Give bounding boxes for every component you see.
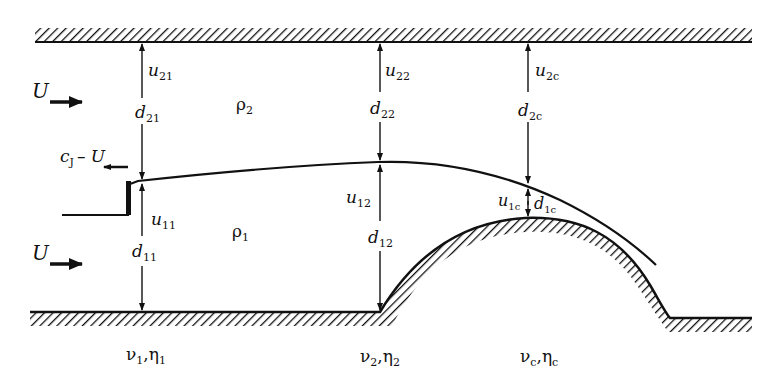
- upper-density-label: ρ2: [236, 94, 253, 117]
- two-layer-flow-diagram: U U cJ– U ρ2 ρ1 u21 d21 u11 d11 ν1,η1 u2…: [0, 0, 779, 391]
- d21-label: d21: [135, 102, 160, 125]
- u12-label: u12: [346, 187, 371, 210]
- u1c-label: u1c: [498, 191, 521, 212]
- station-1-params: ν1,η1: [126, 344, 166, 367]
- jump-speed-label: cJ– U: [60, 146, 106, 169]
- d12-label: d12: [368, 227, 393, 250]
- d22-label: d22: [370, 98, 395, 121]
- bottom-wall-with-obstacle: [30, 218, 752, 332]
- station-2-params: ν2,η2: [360, 346, 400, 369]
- u22-label: u22: [385, 60, 410, 83]
- upper-inflow-label: U: [32, 79, 50, 103]
- u21-label: u21: [148, 60, 173, 83]
- lower-density-label: ρ1: [232, 221, 249, 244]
- station-c-params: νc,ηc: [520, 346, 558, 369]
- d2c-label: d2c: [518, 100, 542, 123]
- u2c-label: u2c: [535, 60, 559, 83]
- d11-label: d11: [132, 241, 157, 264]
- u11-label: u11: [151, 209, 176, 232]
- lower-inflow-label: U: [32, 241, 50, 265]
- jump-front: [126, 181, 131, 215]
- top-wall: [35, 28, 752, 42]
